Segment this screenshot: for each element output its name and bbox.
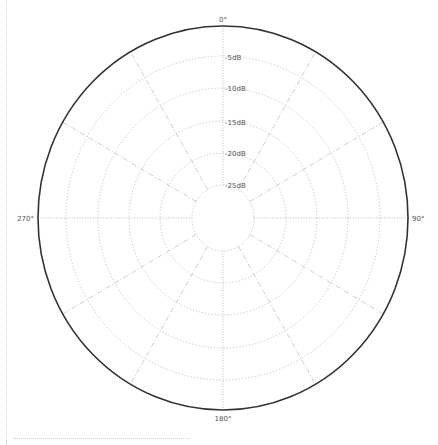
angle-label-90: 90° xyxy=(412,215,424,223)
spoke-210 xyxy=(131,247,208,385)
radial-label-10: -10dB xyxy=(225,85,246,93)
angle-label-270: 270° xyxy=(17,215,34,223)
spoke-330 xyxy=(131,52,208,190)
radial-label-20: -20dB xyxy=(225,150,246,158)
ring-minus25 xyxy=(192,185,254,251)
axis-lines xyxy=(38,26,408,410)
angle-label-0: 0° xyxy=(219,16,227,24)
radial-label-5: -5dB xyxy=(225,54,241,62)
polar-chart: 0° 90° 180° 270° -5dB -10dB -15dB -20dB … xyxy=(0,0,438,445)
radial-label-15: -15dB xyxy=(225,119,246,127)
radial-label-25: -25dB xyxy=(225,182,246,190)
caption-line xyxy=(14,438,190,439)
angle-label-180: 180° xyxy=(215,415,232,423)
